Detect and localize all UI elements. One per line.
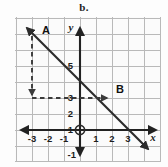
figure-caption: b. — [0, 0, 168, 15]
x-tick-1: 1 — [93, 133, 99, 144]
y-tick-neg1: -1 — [68, 149, 77, 160]
x-tick-2: 2 — [109, 133, 114, 144]
figure-root: b. — [0, 0, 168, 167]
point-label-a: A — [42, 24, 50, 36]
y-tick-2: 2 — [68, 108, 73, 119]
x-tick-neg3: -3 — [28, 133, 36, 144]
y-tick-5: 5 — [68, 60, 74, 71]
y-tick-3: 3 — [68, 92, 73, 103]
plot-svg: y x -3 -2 -1 1 2 3 5 3 2 1 -1 A B — [15, 17, 161, 162]
point-label-b: B — [116, 83, 124, 95]
x-tick-neg2: -2 — [44, 133, 52, 144]
x-axis-label: x — [149, 131, 156, 143]
y-tick-1: 1 — [68, 124, 74, 135]
x-tick-3: 3 — [125, 133, 130, 144]
coordinate-plane: y x -3 -2 -1 1 2 3 5 3 2 1 -1 A B — [15, 17, 161, 162]
y-axis-label: y — [67, 21, 74, 33]
